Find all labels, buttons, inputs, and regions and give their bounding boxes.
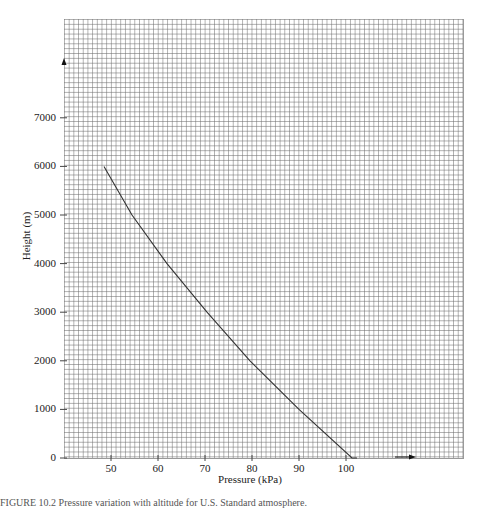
y-axis-arrow-icon (62, 58, 67, 65)
x-tick-label-100: 100 (331, 462, 361, 474)
y-axis-ticks (60, 118, 67, 458)
y-tick-label-2000: 2000 (16, 354, 56, 366)
y-tick-label-0: 0 (16, 451, 56, 463)
x-axis-arrow-icon (409, 455, 416, 460)
y-tick-label-7000: 7000 (16, 111, 56, 123)
pressure-height-curve (104, 166, 357, 458)
y-tick-label-1000: 1000 (16, 402, 56, 414)
figure-caption: FIGURE 10.2 Pressure variation with alti… (0, 497, 307, 508)
x-axis-title: Pressure (kPa) (190, 473, 310, 485)
x-tick-label-50: 50 (96, 462, 126, 474)
y-tick-label-3000: 3000 (16, 305, 56, 317)
x-axis-ticks (111, 455, 346, 461)
y-axis-title: Height (m) (20, 196, 32, 276)
y-tick-label-6000: 6000 (16, 159, 56, 171)
x-tick-label-60: 60 (143, 462, 173, 474)
